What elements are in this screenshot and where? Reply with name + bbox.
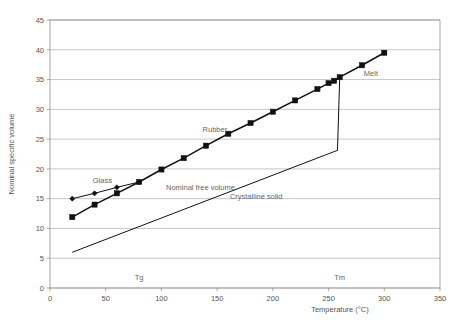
y-axis-title: Nominal specific volume <box>7 114 16 195</box>
chart-container: 050100150200250300350 051015202530354045… <box>0 0 459 334</box>
y-tick-label-0: 0 <box>40 284 44 293</box>
annotation-glass: Glass <box>93 176 112 185</box>
marker-rubber-melt-80 <box>137 179 142 184</box>
marker-rubber-melt-60 <box>114 191 119 196</box>
y-tick-label-20: 20 <box>36 165 44 174</box>
annotation-rubber: Rubber <box>203 125 228 134</box>
nominal-specific-volume-chart: 050100150200250300350 051015202530354045… <box>0 0 459 334</box>
marker-rubber-melt-250 <box>326 81 331 86</box>
annotation-crystalline-solid: Crystalline solid <box>230 192 283 201</box>
marker-rubber-melt-240 <box>315 86 320 91</box>
x-axis-title: Temperature (°C) <box>311 305 369 314</box>
y-tick-label-30: 30 <box>36 105 44 114</box>
marker-rubber-melt-255 <box>332 78 337 83</box>
annotation-nominal-free-volume: Nominal free volume <box>166 183 235 192</box>
marker-rubber-melt-20 <box>70 215 75 220</box>
y-tick-label-45: 45 <box>36 16 44 25</box>
marker-rubber-melt-180 <box>248 120 253 125</box>
y-tick-label-5: 5 <box>40 254 44 263</box>
y-tick-label-35: 35 <box>36 75 44 84</box>
x-tick-label-0: 0 <box>48 294 52 303</box>
annotation-melt: Melt <box>364 69 379 78</box>
x-tick-label-350: 350 <box>434 294 447 303</box>
marker-rubber-melt-200 <box>270 109 275 114</box>
x-tick-label-250: 250 <box>322 294 335 303</box>
marker-rubber-melt-280 <box>359 63 364 68</box>
x-tick-label-100: 100 <box>155 294 168 303</box>
x-tick-label-150: 150 <box>211 294 224 303</box>
y-tick-label-15: 15 <box>36 194 44 203</box>
marker-rubber-melt-260 <box>337 75 342 80</box>
x-tick-label-200: 200 <box>267 294 280 303</box>
marker-rubber-melt-40 <box>92 202 97 207</box>
annotation-tm: Tm <box>334 273 345 282</box>
marker-rubber-melt-120 <box>181 156 186 161</box>
x-tick-label-300: 300 <box>378 294 391 303</box>
annotation-tg: Tg <box>135 273 144 282</box>
marker-rubber-melt-300 <box>382 50 387 55</box>
marker-rubber-melt-220 <box>293 98 298 103</box>
marker-rubber-melt-100 <box>159 167 164 172</box>
y-tick-label-40: 40 <box>36 46 44 55</box>
marker-rubber-melt-140 <box>203 143 208 148</box>
y-tick-label-25: 25 <box>36 135 44 144</box>
x-tick-label-50: 50 <box>102 294 110 303</box>
y-tick-label-10: 10 <box>36 224 44 233</box>
